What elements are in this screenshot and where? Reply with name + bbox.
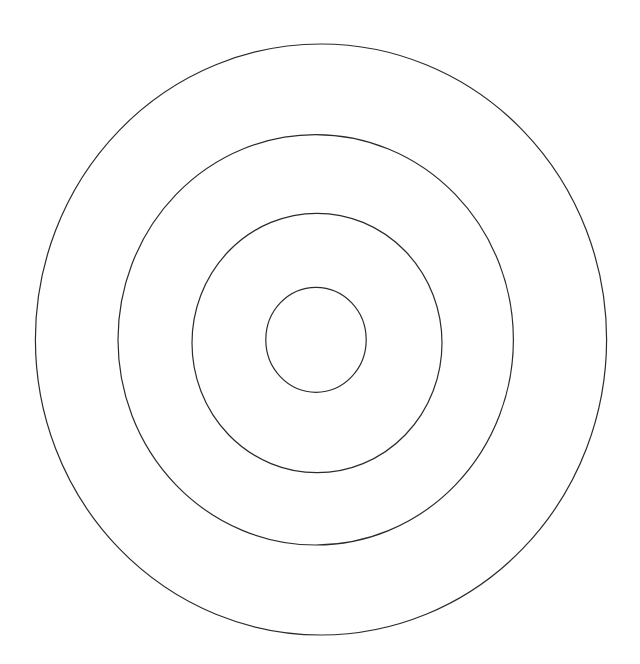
background [0,0,640,664]
concentric-circles-diagram [0,0,640,664]
